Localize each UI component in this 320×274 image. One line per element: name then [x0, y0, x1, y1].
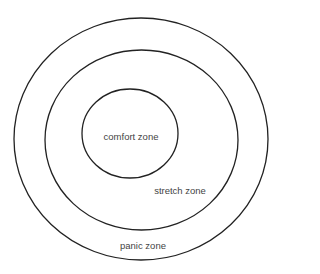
- comfort-zone-label: comfort zone: [104, 131, 159, 142]
- stretch-zone-label: stretch zone: [154, 185, 206, 196]
- panic-zone-label: panic zone: [120, 240, 166, 251]
